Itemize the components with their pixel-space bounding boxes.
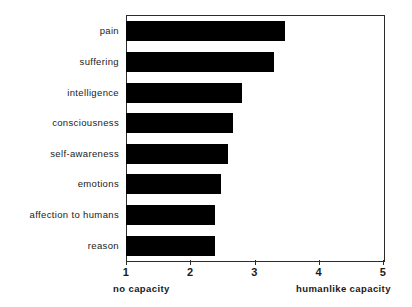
scale-low-caption: no capacity: [113, 283, 170, 294]
horizontal-bar-chart: painsufferingintelligenceconsciousnessse…: [0, 0, 412, 307]
bar-self-awareness: [126, 144, 228, 164]
bar-fill: [126, 83, 242, 103]
bar-fill: [126, 113, 233, 133]
x-tick-label-3: 3: [243, 266, 267, 278]
bar-consciousness: [126, 113, 233, 133]
category-label-intelligence: intelligence: [67, 87, 119, 98]
bar-intelligence: [126, 83, 242, 103]
category-label-consciousness: consciousness: [52, 117, 119, 128]
category-label-pain: pain: [100, 25, 119, 36]
category-label-affection-to-humans: affection to humans: [30, 209, 119, 220]
x-tick-mark-2: [190, 260, 191, 265]
category-label-self-awareness: self-awareness: [50, 148, 119, 159]
x-tick-mark-4: [319, 260, 320, 265]
bar-fill: [126, 21, 285, 41]
bar-fill: [126, 52, 274, 72]
bar-fill: [126, 236, 215, 256]
category-label-emotions: emotions: [78, 178, 119, 189]
category-label-reason: reason: [88, 240, 119, 251]
bar-emotions: [126, 174, 221, 194]
bar-reason: [126, 236, 215, 256]
x-tick-mark-5: [383, 260, 384, 265]
bar-suffering: [126, 52, 274, 72]
bar-pain: [126, 21, 285, 41]
bar-affection-to-humans: [126, 205, 215, 225]
scale-high-caption: humanlike capacity: [296, 283, 391, 294]
bar-fill: [126, 205, 215, 225]
x-tick-label-4: 4: [307, 266, 331, 278]
bar-fill: [126, 174, 221, 194]
category-label-suffering: suffering: [80, 56, 119, 67]
x-tick-label-1: 1: [114, 266, 138, 278]
x-tick-mark-1: [126, 260, 127, 265]
x-tick-label-2: 2: [178, 266, 202, 278]
bar-fill: [126, 144, 228, 164]
x-tick-label-5: 5: [371, 266, 395, 278]
x-tick-mark-3: [255, 260, 256, 265]
